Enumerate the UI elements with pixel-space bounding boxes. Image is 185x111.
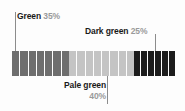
bar-segment bbox=[162, 51, 169, 76]
bar-segment bbox=[169, 51, 175, 76]
bar-segment bbox=[127, 51, 134, 76]
bar-segment bbox=[155, 51, 162, 76]
annotation-pale-green: Pale green 40% bbox=[58, 80, 106, 101]
bar-zone-pale-green bbox=[69, 51, 134, 76]
bar-segment bbox=[29, 51, 37, 76]
leader-line-green bbox=[15, 12, 16, 52]
annotation-dark-green: Dark green 25% bbox=[85, 26, 147, 36]
bar-segment bbox=[45, 51, 53, 76]
bar-segment bbox=[53, 51, 61, 76]
bar-segment bbox=[62, 51, 69, 76]
bar-zone-dark-green bbox=[134, 51, 175, 76]
bar-segment bbox=[110, 51, 118, 76]
annotation-green-percent: 35% bbox=[43, 11, 60, 21]
proportion-bar bbox=[12, 51, 175, 76]
annotation-green: Green 35% bbox=[17, 11, 60, 21]
leader-line-pale-green bbox=[107, 72, 108, 104]
bar-segment bbox=[69, 51, 77, 76]
stacked-proportion-bar-chart: Green 35% Dark green 25% Pale green 40% bbox=[0, 0, 185, 111]
leader-line-dark-green bbox=[155, 34, 156, 52]
bar-segment bbox=[134, 51, 141, 76]
annotation-pale-green-name: Pale green bbox=[58, 80, 106, 91]
bar-segment bbox=[141, 51, 148, 76]
bar-segment bbox=[94, 51, 102, 76]
annotation-pale-green-percent: 40% bbox=[58, 91, 106, 102]
annotation-dark-green-percent: 25% bbox=[131, 26, 148, 36]
bar-segment bbox=[20, 51, 28, 76]
bar-zone-green bbox=[12, 51, 69, 76]
bar-segment bbox=[86, 51, 94, 76]
bar-segment bbox=[12, 51, 20, 76]
bar-segment bbox=[119, 51, 127, 76]
bar-segment bbox=[102, 51, 110, 76]
annotation-dark-green-name: Dark green bbox=[85, 26, 128, 36]
bar-segment bbox=[77, 51, 85, 76]
bar-segment bbox=[148, 51, 155, 76]
bar-segment bbox=[37, 51, 45, 76]
annotation-green-name: Green bbox=[17, 11, 41, 21]
